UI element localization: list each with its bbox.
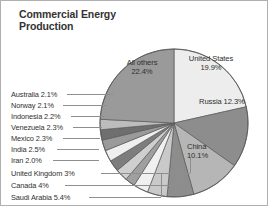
callout-label-india: India 2.5%: [11, 145, 45, 154]
leader-elbow-united-kingdom: [190, 158, 191, 173]
leader-line-mexico: [63, 138, 100, 139]
leader-elbow-saudi-arabia: [161, 173, 162, 197]
callout-label-canada: Canada 4%: [11, 181, 49, 190]
leader-line-venezuela: [73, 127, 102, 128]
slice-label-all-others: All others 22.4%: [114, 58, 170, 76]
leader-line-canada: [65, 185, 176, 186]
slice-label-china: China 10.1%: [187, 142, 231, 160]
leader-line-saudi-arabia: [89, 197, 161, 198]
slice-label-russia: Russia 12.3%: [199, 97, 265, 106]
slice-label-united-states: United States 19.9%: [175, 54, 247, 72]
callout-label-iran: Iran 2.0%: [11, 156, 42, 165]
leader-line-indonesia: [71, 116, 104, 117]
leader-line-india: [57, 149, 99, 150]
callout-label-united-kingdom: United Kingdom 3%: [11, 169, 75, 178]
leader-line-australia: [67, 94, 113, 95]
pie-chart-figure: Commercial Energy Production United Stat…: [0, 0, 268, 206]
leader-line-norway: [63, 105, 107, 106]
callout-label-australia: Australia 2.1%: [11, 90, 57, 99]
leader-elbow-canada: [176, 167, 177, 185]
callout-label-mexico: Mexico 2.3%: [11, 134, 52, 143]
callout-label-venezuela: Venezuela 2.3%: [11, 123, 63, 132]
callout-label-saudi-arabia: Saudi Arabia 5.4%: [11, 193, 70, 202]
leader-line-iran: [53, 160, 99, 161]
callout-label-norway: Norway 2.1%: [11, 101, 54, 110]
callout-label-indonesia: Indonesia 2.2%: [11, 112, 61, 121]
